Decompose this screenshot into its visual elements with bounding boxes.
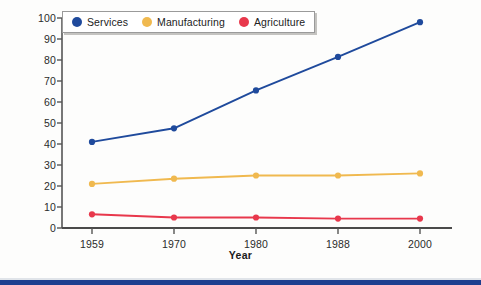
footer-bar: [0, 280, 481, 285]
legend-item-manufacturing[interactable]: Manufacturing: [142, 16, 225, 28]
chart-legend: ServicesManufacturingAgriculture: [62, 11, 315, 33]
legend-item-agriculture[interactable]: Agriculture: [239, 16, 305, 28]
chart-page: 0102030405060708090100 19591970198019882…: [0, 0, 481, 285]
x-axis-title: Year: [0, 249, 481, 261]
legend-item-services[interactable]: Services: [72, 16, 128, 28]
legend-label: Manufacturing: [157, 16, 225, 28]
legend-label: Services: [87, 16, 128, 28]
legend-swatch-agriculture-icon: [239, 17, 249, 27]
line-chart: 0102030405060708090100 19591970198019882…: [0, 0, 481, 258]
legend-label: Agriculture: [254, 16, 305, 28]
x-axis-labels: 19591970198019882000: [0, 0, 481, 258]
legend-swatch-manufacturing-icon: [142, 17, 152, 27]
legend-swatch-services-icon: [72, 17, 82, 27]
